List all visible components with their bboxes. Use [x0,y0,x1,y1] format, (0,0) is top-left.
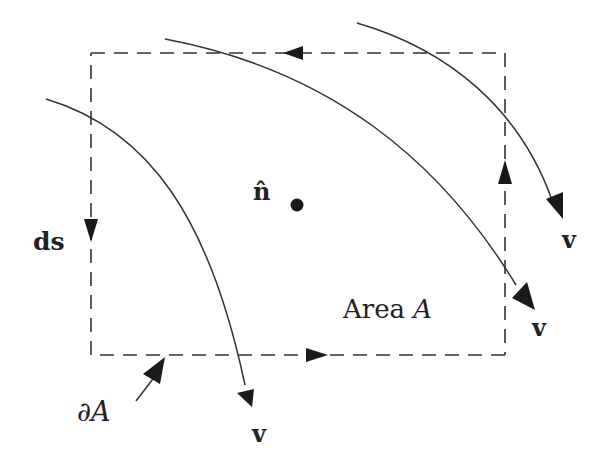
normal-label: n̂ [253,180,270,204]
streamline-right [357,23,552,200]
streamline-left-arrowhead [237,389,254,407]
area-variable: A [413,294,432,324]
velocity-label-left: v [252,422,266,446]
ds-label: ds [33,229,65,254]
boundary-label: ∂A [77,398,110,425]
velocity-label-middle: v [532,316,546,340]
normal-point [291,199,304,212]
streamline-right-arrowhead [546,192,563,219]
boundary-arrow-right [498,160,512,184]
streamline-middle-arrowhead [512,282,535,310]
area-word: Area [343,294,413,324]
boundary-arrow-top [283,46,303,60]
area-label: Area A [343,296,432,322]
boundary-pointer-arrowhead [143,357,165,384]
streamline-left [46,99,245,385]
velocity-label-right: v [562,228,576,252]
boundary-arrow-left [84,219,98,242]
boundary-arrow-bottom [306,348,328,362]
diagram-canvas: n̂ ds Area A ∂A v v v [0,0,613,471]
